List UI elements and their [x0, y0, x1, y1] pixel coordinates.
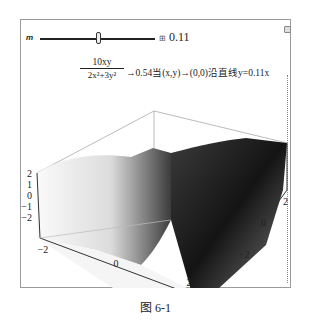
slider-control: m ⊞0.11 [26, 30, 226, 46]
x-tick: 0 [114, 258, 119, 269]
z-tick: 2 [27, 168, 32, 179]
limit-formula: 10xy 2x²+3y² →0.54当(x,y)→(0,0)沿直线y=0.11x [80, 57, 300, 89]
y-tick: −2 [239, 249, 250, 260]
expand-plus-icon[interactable]: ⊞ [159, 34, 166, 43]
surface-plot-3d[interactable]: 2 1 0 −1 −2 −2 0 2 −2 0 2 [21, 90, 292, 288]
z-tick: −1 [21, 201, 32, 212]
slider-thumb[interactable] [96, 32, 101, 44]
x-tick: −2 [38, 244, 49, 255]
slider-label: m [26, 33, 33, 42]
z-tick: 1 [27, 179, 32, 190]
fraction: 10xy 2x²+3y² [80, 57, 124, 80]
y-tick: 2 [283, 196, 288, 207]
manipulate-panel: m ⊞0.11 10xy 2x²+3y² →0.54当(x,y)→(0,0)沿直… [20, 19, 291, 288]
options-icon[interactable] [284, 26, 291, 33]
figure-caption: 图 6-1 [0, 298, 311, 316]
denominator: 2x²+3y² [80, 69, 124, 80]
slider-value: ⊞0.11 [159, 30, 190, 45]
numerator: 10xy [80, 57, 124, 69]
x-tick: 2 [187, 277, 192, 288]
limit-statement: →0.54当(x,y)→(0,0)沿直线y=0.11x [126, 65, 269, 79]
z-tick: −2 [21, 212, 32, 223]
y-tick: 0 [261, 217, 266, 228]
slider-value-text: 0.11 [169, 30, 190, 44]
z-tick: 0 [27, 190, 32, 201]
